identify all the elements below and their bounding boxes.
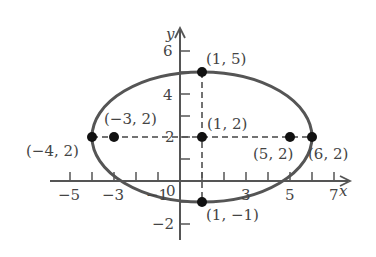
x-tick-label: −3 [102, 186, 124, 204]
x-tick-label: 7 [329, 186, 339, 204]
point-1-2 [197, 132, 207, 142]
y-tick-label: −2 [152, 215, 174, 233]
x-tick-label: 0 [166, 182, 176, 200]
point-neg3-2 [109, 132, 119, 142]
point-1-5 [197, 67, 207, 77]
point-label: (1, 5) [206, 50, 246, 68]
point-label: (−4, 2) [26, 142, 79, 160]
point-label: (6, 2) [308, 145, 348, 163]
point-neg4-2 [87, 132, 97, 142]
y-tick-label: 4 [163, 86, 173, 104]
x-tick-label: 5 [285, 186, 295, 204]
x-axis-label: x [339, 182, 348, 200]
y-tick-label: 6 [163, 42, 173, 60]
point-label: (1, −1) [206, 206, 259, 224]
x-tick-label: −1 [146, 186, 168, 204]
graph-canvas: y x −5 −3 −1 0 3 5 7 6 4 2 −2 (1, 5) (−4… [0, 0, 376, 257]
point-5-2 [285, 132, 295, 142]
point-label: (−3, 2) [104, 110, 157, 128]
y-axis-label: y [165, 25, 175, 43]
ellipse-diagram: y x −5 −3 −1 0 3 5 7 6 4 2 −2 (1, 5) (−4… [0, 0, 376, 257]
y-ticks [180, 51, 190, 224]
point-6-2 [307, 132, 317, 142]
x-tick-label: 3 [241, 186, 251, 204]
point-label: (5, 2) [253, 145, 293, 163]
x-tick-label: −5 [58, 186, 80, 204]
point-label: (1, 2) [207, 115, 247, 133]
y-tick-label: 2 [165, 128, 175, 146]
